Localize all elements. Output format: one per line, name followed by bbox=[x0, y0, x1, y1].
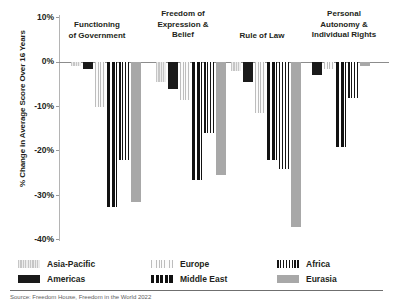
swatch-middle-east-icon bbox=[151, 275, 173, 283]
bar-personal-autonomy-individual-rights-eurasia bbox=[360, 62, 370, 66]
legend-item-middle-east: Middle East bbox=[151, 271, 227, 286]
bar-rule-of-law-middle-east bbox=[267, 62, 277, 160]
bar-personal-autonomy-individual-rights-middle-east bbox=[336, 62, 346, 147]
swatch-asia-pacific-icon bbox=[18, 260, 40, 268]
legend-label-asia-pacific: Asia-Pacific bbox=[47, 259, 95, 269]
legend-label-middle-east: Middle East bbox=[180, 274, 227, 284]
legend-label-americas: Americas bbox=[47, 274, 85, 284]
swatch-eurasia-icon bbox=[277, 275, 299, 283]
legend-item-europe: Europe bbox=[151, 256, 227, 271]
bar-freedom-of-expression-belief-africa bbox=[204, 62, 214, 133]
y-tick-label-n40: -40% bbox=[18, 235, 54, 244]
bar-functioning-of-government-asia-pacific bbox=[71, 62, 81, 66]
bar-rule-of-law-americas bbox=[243, 62, 253, 82]
bar-functioning-of-government-eurasia bbox=[131, 62, 141, 202]
footer-divider bbox=[10, 290, 383, 291]
chart-container: % Change in Average Score Over 16 Years … bbox=[0, 0, 393, 303]
source-note: Source: Freedom House, Freedom in the Wo… bbox=[10, 294, 151, 300]
y-axis-ticks: 10% 0% -10% -20% -30% -40% bbox=[0, 0, 54, 250]
bar-personal-autonomy-individual-rights-americas bbox=[312, 62, 322, 75]
swatch-africa-icon bbox=[277, 260, 299, 268]
chart-legend: Asia-Pacific Americas Europe Middle East… bbox=[0, 256, 393, 290]
bar-functioning-of-government-europe bbox=[95, 62, 105, 107]
bar-freedom-of-expression-belief-americas bbox=[168, 62, 178, 89]
y-tick-label-0: 0% bbox=[18, 57, 54, 66]
swatch-europe-icon bbox=[151, 260, 173, 268]
bar-rule-of-law-europe bbox=[255, 62, 265, 113]
bar-personal-autonomy-individual-rights-europe bbox=[324, 62, 334, 69]
bar-rule-of-law-asia-pacific bbox=[231, 62, 241, 71]
bar-freedom-of-expression-belief-asia-pacific bbox=[156, 62, 166, 82]
bar-personal-autonomy-individual-rights-africa bbox=[348, 62, 358, 98]
bar-functioning-of-government-africa bbox=[119, 62, 129, 160]
legend-item-africa: Africa bbox=[277, 256, 337, 271]
legend-label-africa: Africa bbox=[306, 259, 330, 269]
y-tick-label-10: 10% bbox=[18, 13, 54, 22]
legend-label-eurasia: Eurasia bbox=[306, 274, 337, 284]
legend-label-europe: Europe bbox=[180, 259, 209, 269]
bar-freedom-of-expression-belief-europe bbox=[180, 62, 190, 100]
legend-item-americas: Americas bbox=[18, 271, 95, 286]
bar-series-layer bbox=[59, 0, 389, 250]
y-tick-label-n20: -20% bbox=[18, 146, 54, 155]
bar-freedom-of-expression-belief-middle-east bbox=[192, 62, 202, 180]
bar-freedom-of-expression-belief-eurasia bbox=[216, 62, 226, 175]
y-tick-label-n30: -30% bbox=[18, 191, 54, 200]
legend-item-asia-pacific: Asia-Pacific bbox=[18, 256, 95, 271]
bar-rule-of-law-africa bbox=[279, 62, 289, 169]
legend-item-eurasia: Eurasia bbox=[277, 271, 337, 286]
bar-rule-of-law-eurasia bbox=[291, 62, 301, 227]
swatch-americas-icon bbox=[18, 275, 40, 283]
bar-functioning-of-government-middle-east bbox=[107, 62, 117, 207]
y-tick-label-n10: -10% bbox=[18, 102, 54, 111]
plot-area: % Change in Average Score Over 16 Years … bbox=[0, 0, 393, 250]
bar-functioning-of-government-americas bbox=[83, 62, 93, 69]
